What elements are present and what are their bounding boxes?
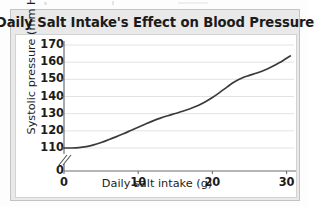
- plot-area: [16, 35, 298, 199]
- chart-panel: Daily Salt Intake's Effect on Blood Pres…: [10, 9, 300, 201]
- scan-artifact: [178, 2, 208, 4]
- data-line-systolic-pressure: [64, 56, 290, 148]
- scan-artifact: [112, 1, 114, 5]
- axis-break-mark: [59, 155, 71, 165]
- chart-title: Daily Salt Intake's Effect on Blood Pres…: [0, 15, 308, 30]
- scan-artifact: [44, 2, 47, 5]
- chart-title-band: Daily Salt Intake's Effect on Blood Pres…: [11, 10, 299, 34]
- plot-card: Systolic pressure (mm Hg) Daily salt int…: [15, 34, 297, 198]
- figure-root: Daily Salt Intake's Effect on Blood Pres…: [0, 0, 308, 207]
